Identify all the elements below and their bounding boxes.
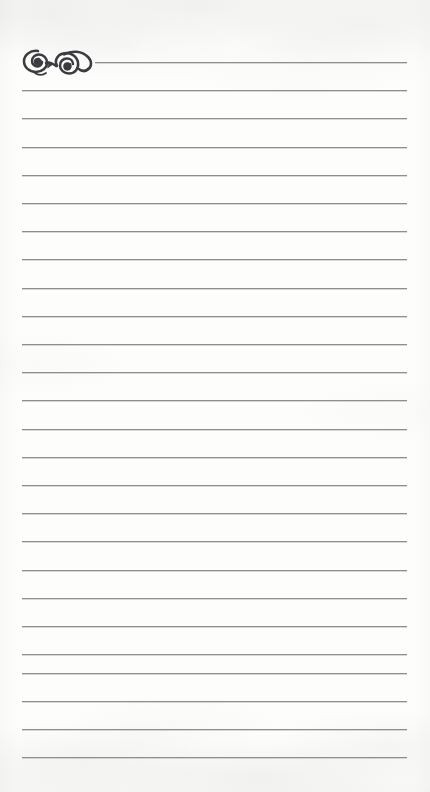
rule-line bbox=[22, 513, 407, 514]
rule-line bbox=[22, 654, 407, 655]
calligraphic-flourish-icon bbox=[20, 44, 96, 80]
rule-line bbox=[95, 62, 407, 63]
rule-line bbox=[22, 541, 407, 542]
rule-line bbox=[22, 259, 407, 260]
rule-line bbox=[22, 598, 407, 599]
rule-line bbox=[22, 372, 407, 373]
rule-line bbox=[22, 118, 407, 119]
rule-line bbox=[22, 90, 407, 91]
rule-line bbox=[22, 288, 407, 289]
rule-line bbox=[22, 701, 407, 702]
rule-line bbox=[22, 147, 407, 148]
rule-line bbox=[22, 429, 407, 430]
rule-line bbox=[22, 570, 407, 571]
notepaper-page bbox=[0, 0, 430, 792]
rule-line bbox=[22, 626, 407, 627]
rule-line bbox=[22, 457, 407, 458]
ruled-lines-group bbox=[0, 0, 430, 792]
rule-line bbox=[22, 673, 407, 674]
rule-line bbox=[22, 729, 407, 730]
rule-line bbox=[22, 485, 407, 486]
rule-line bbox=[22, 203, 407, 204]
rule-line bbox=[22, 316, 407, 317]
rule-line bbox=[22, 175, 407, 176]
rule-line bbox=[22, 757, 407, 758]
rule-line bbox=[22, 344, 407, 345]
rule-line bbox=[22, 400, 407, 401]
rule-line bbox=[22, 231, 407, 232]
